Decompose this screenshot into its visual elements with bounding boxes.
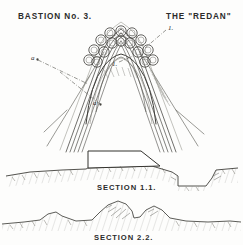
section-2-2-drawing bbox=[2, 201, 241, 231]
key-label-1-right: 1. bbox=[168, 24, 173, 32]
page-title-redan: THE "REDAN" bbox=[166, 12, 231, 21]
key-label-1-middle: 1. bbox=[112, 60, 117, 68]
survey-drawing bbox=[0, 0, 243, 245]
key-label-a-left: a bbox=[31, 54, 35, 62]
bastion-survey-plate: BASTION No. 3. THE "REDAN" SECTION 1.1. … bbox=[0, 0, 243, 245]
plan-flank-extension-lines bbox=[44, 52, 204, 146]
plan-right-rampart-contours bbox=[121, 29, 176, 152]
section-2-2-caption: SECTION 2.2. bbox=[94, 233, 153, 242]
leader-1-right bbox=[145, 30, 166, 48]
key-label-a-middle: a bbox=[93, 99, 97, 107]
plan-parapet-rear-edge bbox=[96, 57, 146, 112]
plan-left-rampart-contours bbox=[66, 29, 121, 152]
section-2-soil-body bbox=[2, 201, 241, 231]
page-title-bastion: BASTION No. 3. bbox=[18, 12, 92, 21]
leader-a-left bbox=[38, 60, 88, 84]
section-1-parapet bbox=[88, 151, 160, 168]
section-1-1-caption: SECTION 1.1. bbox=[97, 183, 156, 192]
